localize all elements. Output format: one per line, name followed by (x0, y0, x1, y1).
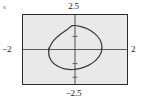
x-axis-min-label: −2 (2, 45, 11, 54)
plot-canvas (23, 15, 127, 84)
y-axis-min-label: −2.5 (2, 89, 143, 98)
y-axis-max-label: 2.5 (2, 2, 143, 11)
plot-viewing-window (22, 14, 128, 85)
x-axis-max-label: 2 (131, 45, 135, 54)
figure-container: 2.5 −2.5 −2 2 (0, 0, 143, 102)
